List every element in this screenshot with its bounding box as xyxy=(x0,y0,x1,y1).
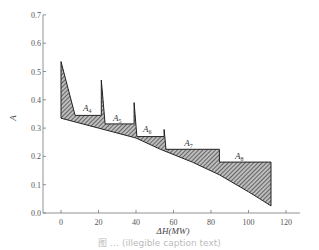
figure-caption: 图 … (illegible caption text) xyxy=(0,236,319,249)
x-tick-label: 80 xyxy=(207,218,215,227)
y-tick-label: 0.1 xyxy=(31,181,41,190)
y-tick-label: 0.2 xyxy=(31,152,41,161)
y-tick-label: 0.3 xyxy=(31,124,41,133)
y-tick-label: 0.4 xyxy=(31,96,41,105)
region-label: A7 xyxy=(183,138,193,149)
y-axis-label: A xyxy=(8,115,18,122)
region-label: A8 xyxy=(234,151,244,162)
x-tick-label: 20 xyxy=(95,218,103,227)
plot-area xyxy=(61,62,271,206)
x-tick-label: 0 xyxy=(59,218,63,227)
x-tick-label: 100 xyxy=(243,218,255,227)
x-tick-label: 120 xyxy=(280,218,292,227)
axes: 0.00.10.20.30.40.50.60.7020406080100120Δ… xyxy=(8,11,300,236)
region-label: A5 xyxy=(112,113,122,124)
chart: 0.00.10.20.30.40.50.60.7020406080100120Δ… xyxy=(0,0,319,236)
region-label: A6 xyxy=(142,124,152,135)
y-tick-label: 0.6 xyxy=(31,39,41,48)
region-label: A4 xyxy=(82,103,92,114)
x-tick-label: 40 xyxy=(132,218,140,227)
y-tick-label: 0.5 xyxy=(31,68,41,77)
y-tick-label: 0.7 xyxy=(31,11,41,20)
x-axis-label: ΔH(MW) xyxy=(156,226,190,236)
hatched-area xyxy=(61,62,271,206)
y-tick-label: 0.0 xyxy=(31,209,41,218)
